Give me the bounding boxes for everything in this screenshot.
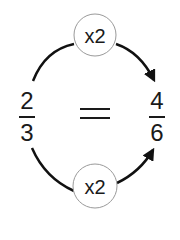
right-denominator: 6 [146,120,168,146]
equals-sign [80,108,110,126]
left-numerator: 2 [16,88,38,114]
fraction-bar [149,116,165,118]
right-numerator: 4 [146,88,168,114]
right-fraction: 4 6 [146,88,168,146]
top-arrow [33,44,74,81]
top-arrow-head-segment [116,44,154,80]
top-operator-label: x2 [73,26,117,46]
left-denominator: 3 [16,120,38,146]
bottom-arrow-head-segment [117,150,153,183]
bottom-operator-label: x2 [73,177,117,197]
fraction-bar [19,116,35,118]
bottom-arrow [32,148,74,191]
left-fraction: 2 3 [16,88,38,146]
